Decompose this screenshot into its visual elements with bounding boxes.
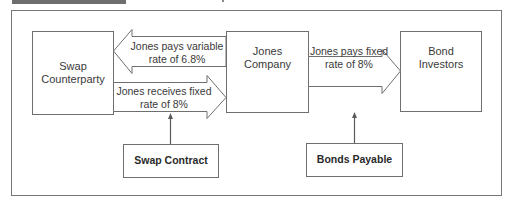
swap-counterparty-line2: Counterparty xyxy=(32,73,114,86)
bonds-payable-arrowhead-icon xyxy=(352,112,357,118)
bond-investors-line2: Investors xyxy=(400,58,482,71)
swap-contract-arrowhead-icon xyxy=(168,113,173,119)
swap-counterparty-line1: Swap xyxy=(32,60,114,73)
pays-fixed-line1: Jones pays fixed xyxy=(306,45,392,58)
jones-company-line2: Company xyxy=(226,58,309,71)
receives-fixed-line2: rate of 8% xyxy=(114,98,214,111)
swap-contract-label: Swap Contract xyxy=(123,154,219,167)
jones-company-label: Jones Company xyxy=(226,45,309,71)
bond-investors-label: Bond Investors xyxy=(400,45,482,71)
bond-investors-box xyxy=(401,32,482,112)
jones-company-box xyxy=(227,32,309,113)
pays-fixed-label: Jones pays fixed rate of 8% xyxy=(306,45,392,71)
bonds-payable-label: Bonds Payable xyxy=(306,153,403,166)
pays-variable-label: Jones pays variable rate of 6.8% xyxy=(128,40,226,66)
receives-fixed-line1: Jones receives fixed xyxy=(114,85,214,98)
bond-investors-line1: Bond xyxy=(400,45,482,58)
pays-variable-line1: Jones pays variable xyxy=(128,40,226,53)
pays-variable-line2: rate of 6.8% xyxy=(128,53,226,66)
pays-fixed-line2: rate of 8% xyxy=(306,58,392,71)
jones-company-line1: Jones xyxy=(226,45,309,58)
receives-fixed-label: Jones receives fixed rate of 8% xyxy=(114,85,214,111)
swap-diagram xyxy=(0,0,513,206)
swap-counterparty-label: Swap Counterparty xyxy=(32,60,114,86)
